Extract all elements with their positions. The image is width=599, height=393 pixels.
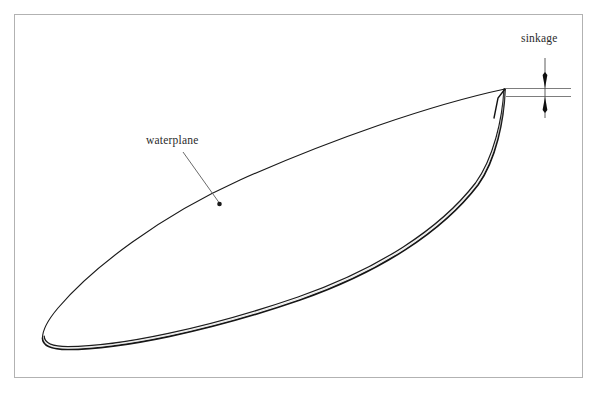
sinkage-label: sinkage	[521, 33, 558, 45]
waterplane-diagram	[0, 0, 599, 393]
figure-border	[15, 15, 583, 378]
figure-container: waterplane sinkage	[0, 0, 599, 393]
waterplane-label: waterplane	[146, 135, 198, 147]
waterplane-leader-dot	[217, 202, 222, 207]
